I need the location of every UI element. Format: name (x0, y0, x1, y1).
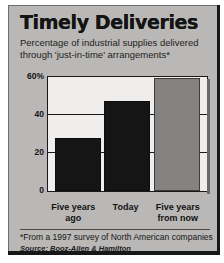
panel-right-edge (217, 5, 220, 255)
source-text: Source: Booz-Allen & Hamilton (20, 244, 215, 253)
bar-five-years-ago (55, 138, 101, 191)
y-tick-label-40: 40 (20, 110, 44, 119)
x-axis-labels: Five years ago Today Five years from now (47, 202, 204, 228)
bar-group (48, 77, 207, 191)
footnote-divider (20, 229, 210, 230)
x-tick-label-five-years-ago: Five years ago (47, 202, 99, 228)
bar-chart: 60% 40 20 0 (20, 72, 210, 200)
chart-subtitle: Percentage of industrial supplies delive… (20, 37, 212, 60)
x-tick-label-five-years-from-now: Five years from now (152, 202, 204, 228)
footnote-text: *From a 1997 survey of North American co… (20, 232, 215, 242)
page-title: Timely Deliveries (20, 12, 198, 32)
chart-panel: Timely Deliveries Percentage of industri… (8, 5, 217, 252)
plot-area (47, 76, 208, 192)
bar-five-years-from-now (154, 78, 200, 191)
y-tick-label-20: 20 (20, 148, 44, 157)
chart-figure: Timely Deliveries Percentage of industri… (0, 0, 224, 263)
x-tick-label-today: Today (99, 202, 151, 228)
y-axis-labels: 60% 40 20 0 (20, 72, 44, 200)
bar-today (104, 101, 150, 191)
y-tick-label-0: 0 (20, 186, 44, 195)
y-tick-label-60: 60% (20, 72, 44, 81)
